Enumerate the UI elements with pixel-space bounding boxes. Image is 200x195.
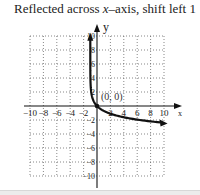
svg-text:10: 10 (160, 108, 170, 118)
svg-text:8: 8 (148, 108, 153, 118)
svg-text:−8: −8 (39, 108, 49, 118)
svg-text:−4: −4 (86, 130, 95, 139)
svg-text:−2: −2 (86, 116, 95, 125)
x-axis-label: x (178, 109, 182, 118)
svg-text:−10: −10 (82, 172, 95, 181)
svg-text:−8: −8 (86, 158, 95, 167)
x-tick-labels: −10−8−6−4−2246810 (23, 108, 169, 118)
svg-text:−6: −6 (52, 108, 62, 118)
origin-point (95, 104, 100, 109)
svg-text:−6: −6 (86, 144, 95, 153)
svg-text:−10: −10 (23, 108, 38, 118)
curve-arrow-right-icon (160, 119, 168, 126)
svg-text:6: 6 (91, 60, 95, 69)
bottom-divider (0, 190, 200, 195)
y-axis-arrow-icon (94, 24, 100, 32)
svg-text:6: 6 (135, 108, 140, 118)
svg-text:−4: −4 (65, 108, 75, 118)
graph: y x −10−8−6−4−2246810 −10−8−6−4−2246810 … (0, 0, 200, 195)
y-axis-label: y (103, 20, 109, 34)
origin-annotation: (0, 0) (101, 91, 123, 103)
svg-text:8: 8 (91, 46, 95, 55)
